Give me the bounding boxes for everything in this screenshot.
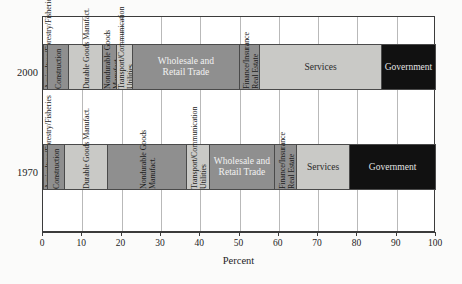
x-tick-mark — [121, 232, 122, 236]
bar-segment: Transport/Communication Utilities — [116, 44, 132, 90]
bar-segment-label: Construction — [53, 149, 62, 189]
bar-segment-label: Construction — [55, 49, 64, 89]
x-tick-label: 30 — [145, 238, 175, 248]
x-tick-mark — [396, 232, 397, 236]
x-tick-mark — [356, 232, 357, 236]
bar-segment-label: Wholesale and Retail Trade — [133, 56, 239, 78]
x-tick-mark — [317, 232, 318, 236]
bar-segment-label: Transport/Communication Utilities — [191, 107, 208, 189]
x-tick-mark — [435, 232, 436, 236]
bar-segment-label: Services — [297, 162, 349, 173]
x-tick-mark — [160, 232, 161, 236]
bar-segment-label: Finance/Insurance Real Estate — [279, 132, 296, 189]
x-tick-label: 10 — [66, 238, 96, 248]
y-tick-label-2000: 2000 — [2, 67, 38, 78]
x-tick-label: 0 — [27, 238, 57, 248]
x-tick-mark — [199, 232, 200, 236]
bar-segment: Wholesale and Retail Trade — [132, 44, 239, 90]
x-tick-label: 50 — [224, 238, 254, 248]
bar-segment: Government — [349, 144, 436, 190]
bar-segment: Durable Goods Manufact. — [68, 44, 102, 90]
x-tick-label: 70 — [302, 238, 332, 248]
bar-segment: Government — [381, 44, 436, 90]
x-tick-label: 20 — [106, 238, 136, 248]
x-tick-mark — [42, 232, 43, 236]
bar-segment: Services — [259, 44, 381, 90]
x-tick-label: 90 — [381, 238, 411, 248]
bar-segment-label: Durable Goods Manufact. — [83, 108, 92, 189]
x-tick-mark — [81, 232, 82, 236]
x-tick-label: 100 — [420, 238, 450, 248]
bar-segment-label: Durable Goods Manufact. — [83, 8, 92, 89]
x-axis-title: Percent — [42, 255, 435, 266]
chart-canvas: Agriculture/Forestry/FisheriesConstructi… — [0, 0, 462, 284]
bar-segment: Transport/Communication Utilities — [186, 144, 209, 190]
bar-segment: Services — [296, 144, 349, 190]
y-tick-label-1970: 1970 — [2, 167, 38, 178]
x-tick-label: 60 — [263, 238, 293, 248]
bar-segment: Construction — [47, 44, 68, 90]
bar-segment: Finance/Insurance Real Estate — [239, 44, 259, 90]
bar-segment-label: Wholesale and Retail Trade — [210, 156, 274, 178]
plot-area: Agriculture/Forestry/FisheriesConstructi… — [42, 16, 435, 232]
bar-segment-label: Nondurable Goods Manufact. — [140, 130, 157, 189]
bar-segment-label: Government — [382, 62, 435, 73]
bar-segment: Durable Goods Manufact. — [64, 144, 107, 190]
bar-segment-label: Finance/Insurance Real Estate — [243, 32, 260, 89]
x-tick-label: 80 — [341, 238, 371, 248]
bar-segment-label: Government — [350, 162, 435, 173]
bar-segment: Finance/Insurance Real Estate — [274, 144, 296, 190]
x-tick-mark — [278, 232, 279, 236]
bar-segment: Nondurable Goods Manufact. — [107, 144, 186, 190]
bar-segment: Wholesale and Retail Trade — [209, 144, 274, 190]
x-tick-label: 40 — [184, 238, 214, 248]
x-tick-mark — [239, 232, 240, 236]
bar-segment: Construction — [47, 144, 64, 190]
bar-segment: Nondurable Goods Manufact. — [102, 44, 116, 90]
bar-segment-label: Services — [260, 62, 381, 73]
